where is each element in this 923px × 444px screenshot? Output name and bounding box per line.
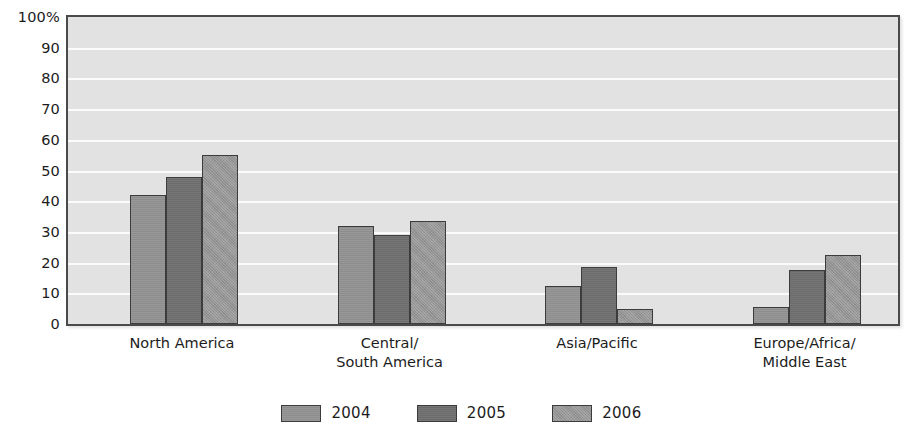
legend-swatch-icon [417, 405, 457, 422]
y-axis-tick-label: 60 [0, 133, 60, 147]
legend-label: 2004 [331, 406, 370, 421]
y-axis-tick-label: 20 [0, 256, 60, 270]
y-axis-tick-label: 90 [0, 41, 60, 55]
bar-2004-group-2 [545, 286, 581, 324]
chart-legend: 200420052006 [0, 398, 923, 428]
y-axis-tick-label: 50 [0, 164, 60, 178]
bar-2005-group-3 [789, 270, 825, 324]
x-axis-labels: North AmericaCentral/ South AmericaAsia/… [66, 334, 900, 380]
x-axis-category-label: Europe/Africa/ Middle East [695, 334, 915, 372]
bar-2005-group-1 [374, 235, 410, 324]
bar-2006-group-1 [410, 221, 446, 324]
bar-2005-group-0 [166, 177, 202, 324]
plot-area [66, 15, 900, 326]
bars-layer [68, 17, 898, 324]
bar-2005-group-2 [581, 267, 617, 324]
x-axis-category-label: North America [72, 334, 292, 353]
bar-2004-group-1 [338, 226, 374, 324]
bar-2004-group-0 [130, 195, 166, 324]
legend-swatch-icon [552, 405, 592, 422]
y-axis-tick-label: 40 [0, 194, 60, 208]
x-axis-category-label: Asia/Pacific [487, 334, 707, 353]
x-axis-category-label: Central/ South America [280, 334, 500, 372]
bar-2006-group-0 [202, 155, 238, 324]
y-axis-tick-label: 0 [0, 317, 60, 331]
legend-item-2005[interactable]: 2005 [417, 405, 506, 422]
legend-item-2006[interactable]: 2006 [552, 405, 641, 422]
bar-2004-group-3 [753, 307, 789, 324]
bar-2006-group-2 [617, 309, 653, 324]
y-axis: 100%9080706050403020100 [0, 0, 60, 340]
y-axis-tick-label: 80 [0, 71, 60, 85]
legend-swatch-icon [281, 405, 321, 422]
y-axis-tick-label: 70 [0, 102, 60, 116]
y-axis-tick-label: 10 [0, 286, 60, 300]
bar-2006-group-3 [825, 255, 861, 324]
legend-item-2004[interactable]: 2004 [281, 405, 370, 422]
y-axis-tick-label: 30 [0, 225, 60, 239]
legend-label: 2005 [467, 406, 506, 421]
y-axis-tick-label: 100% [0, 10, 60, 24]
legend-label: 2006 [602, 406, 641, 421]
bar-chart: 100%9080706050403020100 North AmericaCen… [0, 0, 923, 444]
